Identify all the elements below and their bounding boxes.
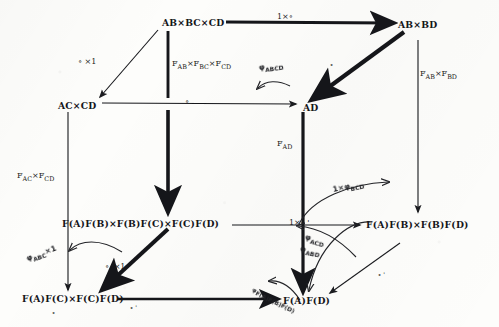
diagram-arrows: [0, 0, 499, 327]
hand-curve-phi-abcd: [258, 82, 290, 88]
edge-label-one-times-composition: 1×∘ ': [289, 219, 309, 227]
edge-ac-cd-to-ad: [102, 103, 296, 104]
edge-fafb-stack-to-fafc-diagonal: [104, 229, 168, 288]
edge-ab-bd-to-ad-diagonal: [314, 32, 404, 98]
node-ac-cd: AC×CD: [58, 101, 96, 110]
node-fafb-fbfc-fcfd: F(A)F(B)×F(B)F(C)×F(C)F(D): [62, 219, 219, 228]
edge-label-bottom-composition: ∘ ': [130, 305, 137, 311]
edge-label-fab-fbd: FAB×FBD: [420, 70, 457, 80]
hand-curve-phi-abc-x1: [70, 242, 122, 252]
node-ab-bd: AB×BD: [398, 20, 437, 29]
edge-label-fac-fcd: FAC×FCD: [17, 172, 54, 182]
edge-label-fad: FAD: [277, 140, 292, 150]
node-ab-bc-cd: AB×BC×CD: [162, 18, 224, 27]
edge-label-top-composition: 1×∘: [277, 13, 293, 21]
node-fafc-fcfd: F(A)F(C)×F(C)F(D): [22, 294, 124, 303]
diagram-canvas: AB×BC×CD AB×BD AC×CD AD F(A)F(B)×F(B)F(C…: [0, 0, 499, 327]
edge-label-composition-tail-left: ∘: [52, 310, 55, 316]
edge-label-fab-fbc-fcd: FAB×FBC×FCD: [172, 60, 231, 70]
edge-label-diag-composition-right: ∘ ': [378, 272, 385, 278]
edge-label-composition-times-one: ∘ ×1: [78, 58, 96, 66]
edge-top-ab-bc-cd-to-ab-bd: [226, 22, 392, 23]
edge-label-diag-composition-ne: ∘: [330, 62, 333, 68]
node-ad: AD: [303, 103, 319, 112]
edge-ab-bc-cd-to-ac-cd: [100, 30, 158, 97]
node-fafb-fbfd: F(A)F(B)×F(B)F(D): [366, 220, 469, 229]
node-fafd: F(A)F(D): [283, 296, 330, 305]
edge-fafb-fbfd-to-fafd-diagonal: [330, 243, 400, 293]
edge-label-diag-composition-x1: ∘ '×1: [105, 263, 125, 271]
edge-label-mid-composition: ∘: [185, 98, 189, 106]
